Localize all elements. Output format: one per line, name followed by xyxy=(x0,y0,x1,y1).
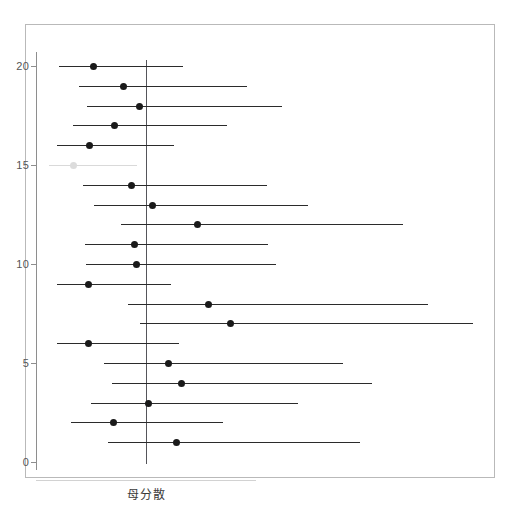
point-estimate-dot xyxy=(86,142,93,149)
confidence-interval-bar xyxy=(57,284,171,285)
confidence-interval-bar xyxy=(71,422,223,423)
point-estimate-dot xyxy=(85,340,92,347)
confidence-interval-bar xyxy=(112,383,372,384)
confidence-interval-bar xyxy=(94,205,308,206)
confidence-interval-bar xyxy=(73,125,227,126)
point-estimate-dot xyxy=(173,439,180,446)
plot-area: 05101520 母分散 xyxy=(0,0,505,518)
confidence-interval-row xyxy=(0,120,505,131)
confidence-interval-bar xyxy=(83,185,267,186)
confidence-interval-row xyxy=(0,81,505,92)
point-estimate-dot xyxy=(110,419,117,426)
confidence-interval-row xyxy=(0,259,505,270)
confidence-interval-row xyxy=(0,437,505,448)
confidence-interval-bar xyxy=(59,66,183,67)
point-estimate-dot xyxy=(149,202,156,209)
confidence-interval-bar xyxy=(128,304,428,305)
confidence-interval-row xyxy=(0,417,505,428)
confidence-interval-row xyxy=(0,279,505,290)
confidence-interval-row xyxy=(0,180,505,191)
confidence-interval-row xyxy=(0,239,505,250)
confidence-interval-row xyxy=(0,140,505,151)
y-tick-label-wrap: 0 xyxy=(0,457,29,468)
confidence-interval-row xyxy=(0,200,505,211)
confidence-interval-row xyxy=(0,160,505,171)
point-estimate-dot xyxy=(194,221,201,228)
confidence-interval-bar xyxy=(79,86,247,87)
confidence-interval-bar xyxy=(121,224,403,225)
confidence-interval-row xyxy=(0,338,505,349)
y-tick-mark xyxy=(31,462,36,463)
confidence-interval-bar xyxy=(57,145,174,146)
confidence-interval-row xyxy=(0,219,505,230)
point-estimate-dot xyxy=(70,162,77,169)
point-estimate-dot xyxy=(178,380,185,387)
x-axis-label: 母分散 xyxy=(26,485,266,502)
point-estimate-dot xyxy=(111,122,118,129)
confidence-interval-bar xyxy=(91,403,298,404)
confidence-interval-row xyxy=(0,378,505,389)
confidence-interval-bar xyxy=(85,244,268,245)
confidence-interval-bar xyxy=(140,323,473,324)
point-estimate-dot xyxy=(227,320,234,327)
confidence-interval-row xyxy=(0,398,505,409)
confidence-interval-row xyxy=(0,61,505,72)
x-axis-rule xyxy=(36,480,256,481)
point-estimate-dot xyxy=(165,360,172,367)
point-estimate-dot xyxy=(205,301,212,308)
point-estimate-dot xyxy=(133,261,140,268)
point-estimate-dot xyxy=(90,63,97,70)
point-estimate-dot xyxy=(85,281,92,288)
confidence-interval-bar xyxy=(49,165,137,166)
confidence-interval-row xyxy=(0,358,505,369)
confidence-interval-bar xyxy=(108,442,360,443)
point-estimate-dot xyxy=(128,182,135,189)
chart-screenshot: 05101520 母分散 xyxy=(0,0,505,518)
confidence-interval-bar xyxy=(86,264,276,265)
y-tick-label: 0 xyxy=(5,457,29,468)
confidence-interval-bar xyxy=(87,106,282,107)
point-estimate-dot xyxy=(120,83,127,90)
point-estimate-dot xyxy=(136,103,143,110)
confidence-interval-bar xyxy=(104,363,343,364)
confidence-interval-row xyxy=(0,299,505,310)
confidence-interval-row xyxy=(0,101,505,112)
point-estimate-dot xyxy=(131,241,138,248)
confidence-interval-row xyxy=(0,318,505,329)
point-estimate-dot xyxy=(145,400,152,407)
confidence-interval-bar xyxy=(57,343,179,344)
